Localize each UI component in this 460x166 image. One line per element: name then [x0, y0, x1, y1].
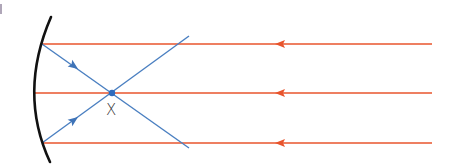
mirror-diagram — [0, 0, 460, 166]
concave-mirror — [34, 17, 51, 162]
focal-point — [109, 90, 115, 96]
cropped-edge-mark — [0, 4, 2, 14]
incident-rays — [35, 44, 432, 143]
focal-point-label: X — [106, 101, 116, 119]
reflected-ray-from-top — [42, 44, 189, 148]
reflected-ray-from-bottom — [42, 36, 189, 143]
reflected-rays — [42, 36, 189, 148]
